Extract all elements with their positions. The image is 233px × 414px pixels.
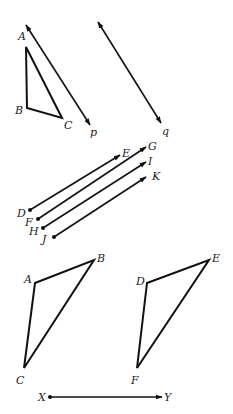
- ray-de: [30, 155, 120, 210]
- label-bottom-e: E: [211, 252, 220, 265]
- top-triangle-abc: A B C: [14, 30, 73, 132]
- geometry-figure: p A B C q D E F G H I J K A B C D E F: [0, 0, 233, 414]
- ray-hi: [43, 162, 146, 228]
- label-h: H: [28, 225, 39, 238]
- label-bottom-a: A: [23, 273, 32, 286]
- label-bottom-c: C: [16, 374, 25, 387]
- ray-xy: X Y: [37, 391, 173, 404]
- top-triangle-shape: [26, 47, 62, 118]
- label-x: X: [37, 391, 47, 404]
- bottom-left-triangle-shape: [24, 260, 94, 368]
- bottom-triangle-abc: A B C: [16, 252, 105, 387]
- label-bottom-b: B: [96, 252, 105, 265]
- label-i: I: [147, 155, 153, 168]
- label-y: Y: [164, 391, 173, 404]
- label-g: G: [148, 140, 157, 153]
- label-top-a: A: [17, 30, 26, 43]
- label-top-c: C: [64, 119, 73, 132]
- label-bottom-d: D: [135, 275, 145, 288]
- line-q: q: [98, 22, 169, 138]
- label-k: K: [151, 170, 161, 183]
- line-q-stroke: [98, 22, 161, 123]
- line-p: p: [26, 25, 97, 139]
- label-e: E: [121, 147, 130, 160]
- bottom-right-triangle-shape: [137, 260, 209, 368]
- parallel-rays: D E F G H I J K: [16, 140, 161, 246]
- label-p: p: [90, 126, 97, 139]
- label-q: q: [162, 125, 169, 138]
- label-j: J: [40, 233, 47, 246]
- bottom-triangle-def: D E F: [130, 252, 220, 387]
- label-bottom-f: F: [130, 374, 139, 387]
- label-top-b: B: [14, 104, 23, 117]
